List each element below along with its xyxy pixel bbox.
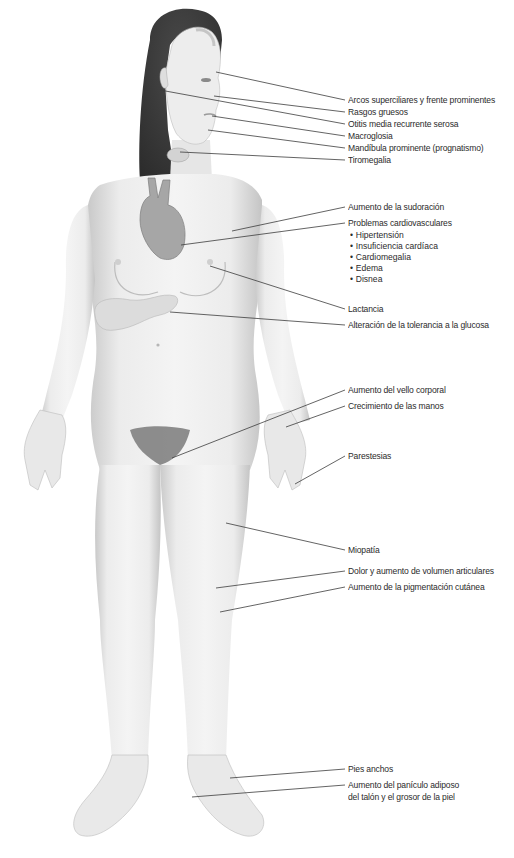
left-foot	[188, 755, 264, 836]
label-otitis: Otitis media recurrente serosa	[348, 119, 458, 130]
navel	[156, 343, 159, 346]
left-arm	[255, 205, 310, 425]
cardio-subitem: Cardiomegalia	[350, 252, 411, 263]
eye	[201, 78, 211, 82]
label-sudoracion: Aumento de la sudoración	[348, 202, 444, 213]
thyroid	[167, 148, 189, 162]
label-miopatia: Miopatía	[348, 545, 380, 556]
label-rasgos-gruesos: Rasgos gruesos	[348, 107, 408, 118]
label-crecimiento-manos: Crecimiento de las manos	[348, 401, 444, 412]
face	[166, 27, 221, 144]
label-lactancia: Lactancia	[348, 304, 383, 315]
label-arcos-superciliares: Arcos superciliares y frente prominentes	[348, 95, 495, 106]
label-parestesias: Parestesias	[348, 451, 391, 462]
label-tiromegalia: Tiromegalia	[348, 155, 391, 166]
cardio-subitem: Disnea	[350, 274, 382, 285]
left-leg	[160, 465, 250, 760]
label-glucosa: Alteración de la tolerancia a la glucosa	[348, 320, 489, 331]
label-paniculo-adiposo: Aumento del panículo adiposo	[348, 780, 459, 791]
right-foot	[74, 755, 149, 836]
cardio-subitem: Insuficiencia cardíaca	[350, 241, 438, 252]
cardio-subitem: Edema	[350, 263, 383, 274]
nipple	[207, 259, 213, 265]
label-pies-anchos: Pies anchos	[348, 764, 393, 775]
right-leg	[95, 465, 161, 760]
label-pigmentacion: Aumento de la pigmentación cutánea	[348, 582, 485, 593]
label-paniculo-adiposo-cont: del talón y el grosor de la piel	[348, 792, 455, 803]
label-cardiovascular: Problemas cardiovasculares	[348, 218, 452, 229]
right-arm	[40, 205, 95, 425]
cardio-subitem: Hipertensión	[350, 230, 404, 241]
nipple	[115, 259, 121, 265]
label-dolor-articular: Dolor y aumento de volumen articulares	[348, 566, 494, 577]
label-mandibula: Mandíbula prominente (prognatismo)	[348, 143, 484, 154]
right-hand	[24, 410, 66, 490]
label-macroglosia: Macroglosia	[348, 131, 393, 142]
label-vello-corporal: Aumento del vello corporal	[348, 385, 446, 396]
